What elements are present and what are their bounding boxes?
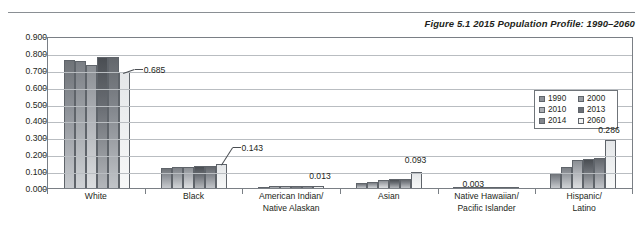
chart-legend: 1990 2000 2010 2013 2014 2060 [534,90,618,129]
bar[interactable] [205,166,216,188]
legend-item-2014[interactable]: 2014 [539,116,574,125]
leader-line [135,69,143,70]
bar[interactable] [389,179,400,188]
bar[interactable] [572,160,583,188]
bar[interactable] [497,187,508,188]
bar[interactable] [313,186,324,188]
gridline [48,139,632,140]
bar[interactable] [64,60,75,188]
x-label-native-hawaiian: Native Hawaiian/Pacific Islander [438,191,536,223]
y-axis-tick-mark [41,37,47,38]
x-label-line2: Pacific Islander [457,203,515,213]
bar[interactable] [508,187,519,188]
legend-label: 1990 [548,94,566,103]
bar[interactable] [216,164,227,188]
data-label: 0.003 [463,179,485,189]
header-divider [8,12,635,13]
legend-item-1990[interactable]: 1990 [539,94,574,103]
bar[interactable] [356,183,367,188]
chart-plot-area: 1990 2000 2010 2013 2014 2060 [47,37,633,189]
bar[interactable] [194,166,205,188]
legend-swatch-icon [578,118,584,124]
y-axis-tick-mark [41,88,47,89]
legend-swatch-icon [539,96,545,102]
bar-group [437,38,534,188]
figure-container: Figure 5.1 2015 Population Profile: 1990… [0,0,643,225]
bar[interactable] [302,186,313,188]
bar[interactable] [119,72,130,188]
y-axis-tick-mark [41,138,47,139]
figure-title: Figure 5.1 2015 Population Profile: 1990… [425,18,635,29]
bar[interactable] [161,168,172,188]
bar[interactable] [561,167,572,188]
x-label-line1: Native Hawaiian/ [454,191,518,201]
bar[interactable] [280,186,291,188]
x-label-line1: White [85,191,107,201]
bar[interactable] [75,61,86,188]
x-label-american-indian: American Indian/Native Alaskan [242,191,340,223]
bar[interactable] [605,140,616,188]
legend-label: 2060 [587,116,605,125]
bar[interactable] [183,167,194,188]
y-axis-tick-mark [41,105,47,106]
gridline [48,55,632,56]
data-label: 0.093 [405,155,427,165]
legend-label: 2014 [548,116,566,125]
bar[interactable] [550,173,561,188]
legend-item-2013[interactable]: 2013 [578,105,613,114]
x-label-line2: Native Alaskan [263,203,320,213]
x-label-asian: Asian [340,191,438,223]
data-label: 0.286 [598,125,620,135]
data-label: 0.685 [144,65,166,75]
x-label-white: White [47,191,145,223]
legend-item-2000[interactable]: 2000 [578,94,613,103]
y-axis-tick-mark [41,172,47,173]
bar[interactable] [486,187,497,188]
legend-swatch-icon [539,107,545,113]
bar[interactable] [258,187,269,188]
bar-group [48,38,145,188]
x-label-hispanic-latino: Hispanic/Latino [535,191,633,223]
x-label-line2: Latino [572,203,595,213]
bar[interactable] [269,186,280,188]
bar[interactable] [378,180,389,188]
data-label: 0.143 [242,143,264,153]
bar[interactable] [86,65,97,188]
legend-item-2010[interactable]: 2010 [539,105,574,114]
legend-swatch-icon [539,118,545,124]
x-label-line1: Black [183,191,204,201]
x-label-black: Black [145,191,243,223]
legend-label: 2010 [548,105,566,114]
x-axis-labels: White Black American Indian/Native Alask… [47,191,633,223]
x-label-line1: Hispanic/ [567,191,602,201]
y-axis-tick-mark [41,54,47,55]
legend-item-2060[interactable]: 2060 [578,116,613,125]
bar[interactable] [367,182,378,188]
gridline [48,156,632,157]
y-axis-tick-mark [41,71,47,72]
bar[interactable] [291,186,302,188]
bar[interactable] [411,172,422,188]
y-axis-tick-mark [41,121,47,122]
bar-group [243,38,340,188]
legend-swatch-icon [578,107,584,113]
bar[interactable] [172,167,183,188]
bar-group [340,38,437,188]
gridline [48,173,632,174]
legend-swatch-icon [578,96,584,102]
x-label-line1: American Indian/ [259,191,324,201]
gridline [48,72,632,73]
legend-label: 2013 [587,105,605,114]
y-axis-tick-mark [41,155,47,156]
x-label-line1: Asian [378,191,400,201]
legend-label: 2000 [587,94,605,103]
bar-group [145,38,242,188]
bar[interactable] [400,179,411,188]
data-label: 0.013 [309,171,331,181]
